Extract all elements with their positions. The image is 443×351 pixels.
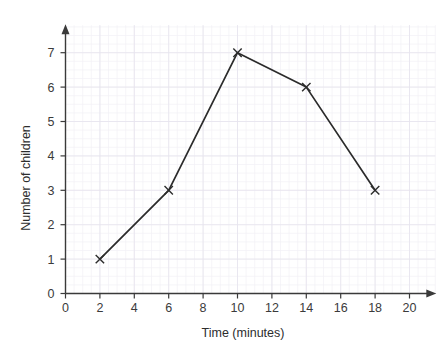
y-tick-label: 1 (48, 253, 55, 267)
x-tick-label: 2 (96, 301, 103, 315)
y-tick-label: 6 (48, 81, 55, 95)
y-tick-label: 7 (48, 46, 55, 60)
y-tick-label: 5 (48, 115, 55, 129)
x-tick-label: 20 (403, 301, 417, 315)
x-tick-label: 4 (131, 301, 138, 315)
y-tick-label: 2 (48, 218, 55, 232)
x-tick-label: 16 (334, 301, 348, 315)
x-tick-label: 0 (62, 301, 69, 315)
line-chart: 02468101214161820 01234567 Time (minutes… (0, 0, 443, 351)
x-tick-label: 14 (299, 301, 313, 315)
x-tick-label: 6 (165, 301, 172, 315)
x-tick-label: 10 (231, 301, 245, 315)
y-tick-label: 0 (48, 287, 55, 301)
y-tick-label: 3 (48, 184, 55, 198)
x-tick-label: 12 (265, 301, 279, 315)
x-tick-label: 18 (368, 301, 382, 315)
y-axis-title: Number of children (19, 125, 33, 231)
x-tick-label: 8 (200, 301, 207, 315)
x-axis-title: Time (minutes) (202, 326, 285, 340)
chart-container: 02468101214161820 01234567 Time (minutes… (0, 0, 443, 351)
y-tick-label: 4 (48, 149, 55, 163)
